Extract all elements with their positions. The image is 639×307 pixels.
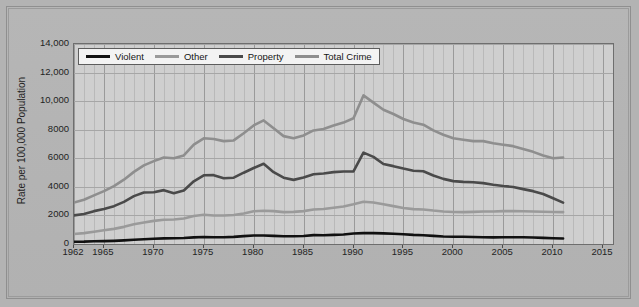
legend-label: Violent <box>115 51 144 62</box>
y-tick-label: 8000 <box>3 124 69 134</box>
y-tick-label: 10,000 <box>3 95 69 105</box>
crime-rate-line-chart: Rate per 100,000 Population 020004000600… <box>0 0 639 307</box>
y-tick-label: 4000 <box>3 181 69 191</box>
series-line-property <box>74 153 563 216</box>
legend-swatch-icon <box>155 55 179 58</box>
legend-swatch-icon <box>295 55 319 58</box>
y-tick-label: 14,000 <box>3 38 69 48</box>
y-tick-label: 2000 <box>3 209 69 219</box>
y-tick-label: 6000 <box>3 152 69 162</box>
legend-item[interactable]: Total Crime <box>295 51 372 62</box>
series-line-other <box>74 202 563 234</box>
series-line-total-crime <box>74 95 563 202</box>
series-line-violent <box>74 233 563 242</box>
legend-label: Other <box>184 51 208 62</box>
plot-area <box>73 43 614 245</box>
series-lines <box>74 44 613 244</box>
legend-label: Total Crime <box>324 51 372 62</box>
y-axis-tick-labels: 0200040006000800010,00012,00014,000 <box>0 0 69 307</box>
gridline-vertical <box>613 44 614 244</box>
legend-item[interactable]: Other <box>155 51 208 62</box>
legend-swatch-icon <box>219 55 243 58</box>
legend-item[interactable]: Violent <box>86 51 144 62</box>
legend-swatch-icon <box>86 55 110 58</box>
chart-legend: ViolentOtherPropertyTotal Crime <box>78 48 380 65</box>
y-tick-label: 12,000 <box>3 67 69 77</box>
chart-page: Rate per 100,000 Population 020004000600… <box>0 0 639 307</box>
legend-label: Property <box>248 51 284 62</box>
legend-item[interactable]: Property <box>219 51 284 62</box>
